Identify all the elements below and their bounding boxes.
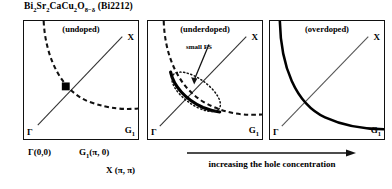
- legend-x-text: X (π, π): [106, 165, 135, 175]
- symmetry-point-legend: Γ(0,0)G1(π, 0) X (π, π): [28, 145, 135, 177]
- title-suffix: (Bi2212): [95, 1, 133, 11]
- title-prefix: Bi: [24, 1, 33, 11]
- panel-overdoped: (overdoped) X Γ G1: [269, 20, 385, 140]
- fermi-surface-dashed: [164, 21, 262, 115]
- doping-arrow-block: increasing the hole concentration: [186, 148, 358, 169]
- panel-undoped-g1-label: G1: [125, 126, 135, 137]
- fermi-surface-dashed: [44, 21, 138, 109]
- panel-undoped: (undoped) X Γ G1: [23, 20, 139, 140]
- panel-undoped-plot: [24, 21, 138, 139]
- panel-underdoped: (underdoped) small FS X Γ G1: [147, 20, 263, 140]
- panel-undoped-x-label: X: [128, 33, 135, 42]
- panel-undoped-gamma-label: Γ: [27, 128, 33, 137]
- panel-overdoped-g1-label: G1: [371, 126, 381, 137]
- panel-overdoped-g1-sub: 1: [378, 130, 381, 137]
- panel-undoped-g1-letter: G: [125, 125, 132, 135]
- title-sub-4: 8−δ: [85, 6, 96, 13]
- panel-underdoped-gamma-label: Γ: [151, 128, 157, 137]
- panel-overdoped-plot: [270, 21, 384, 139]
- panel-undoped-g1-sub: 1: [132, 130, 135, 137]
- title-t3: CaCu: [50, 1, 74, 11]
- figure-title: Bi2Sr2CaCu2O8−δ (Bi2212): [24, 1, 133, 13]
- legend-gamma-text: Γ(0,0): [28, 147, 51, 157]
- nodal-direction-line: [282, 37, 368, 126]
- panel-overdoped-g1-letter: G: [371, 125, 378, 135]
- title-t4: O: [77, 1, 85, 11]
- figure-root: Bi2Sr2CaCu2O8−δ (Bi2212) (undoped) X Γ G…: [0, 0, 392, 189]
- panel-underdoped-plot: [148, 21, 262, 139]
- legend-g1-letter: G: [79, 147, 86, 157]
- panel-underdoped-g1-sub: 1: [256, 130, 259, 137]
- panel-underdoped-g1-letter: G: [249, 125, 256, 135]
- legend-row-x: X (π, π): [28, 163, 135, 177]
- panel-overdoped-x-label: X: [374, 33, 381, 42]
- nodal-direction-line: [38, 37, 123, 126]
- small-fs-annotation-label: small FS: [186, 43, 212, 51]
- panel-overdoped-gamma-label: Γ: [273, 128, 279, 137]
- doping-arrow-icon: [186, 148, 358, 158]
- doping-arrow-caption: increasing the hole concentration: [186, 159, 358, 169]
- panel-underdoped-g1-label: G1: [249, 126, 259, 137]
- legend-row-gamma: Γ(0,0)G1(π, 0): [28, 145, 135, 163]
- nodal-point-marker: [62, 82, 70, 90]
- panel-underdoped-x-label: X: [252, 33, 259, 42]
- legend-g1-coords: (π, 0): [89, 147, 109, 157]
- title-t2: Sr: [37, 1, 47, 11]
